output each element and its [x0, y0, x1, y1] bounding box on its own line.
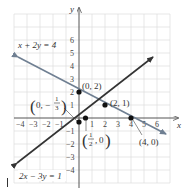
label-4-0: (4, 0) [139, 137, 159, 147]
svg-text:−3: −3 [66, 153, 75, 162]
label-2-1: (2, 1) [110, 98, 130, 108]
svg-text:1: 1 [70, 101, 74, 110]
svg-text:4: 4 [129, 120, 133, 129]
y-tick-labels: 6 5 4 3 2 1 −1 −2 −3 −4 [66, 36, 75, 175]
svg-text:−1: −1 [66, 127, 75, 136]
svg-text:): ) [105, 131, 111, 150]
svg-text:2: 2 [103, 120, 107, 129]
svg-text:−4: −4 [66, 166, 75, 175]
svg-text:6: 6 [70, 36, 74, 45]
svg-text:5: 5 [70, 49, 74, 58]
svg-text:(: ( [82, 131, 88, 150]
svg-text:): ) [61, 97, 67, 116]
svg-text:2: 2 [89, 140, 93, 148]
svg-text:0, −: 0, − [36, 100, 50, 110]
svg-text:,: , [95, 135, 97, 145]
svg-text:1: 1 [90, 120, 94, 129]
x-axis-label: x [176, 120, 181, 130]
line2-label: 2x − 3y = 1 [19, 171, 62, 181]
graph: x y −4 −3 −2 −1 1 2 3 4 5 6 6 5 4 3 2 1 … [0, 0, 189, 193]
svg-text:6: 6 [155, 120, 159, 129]
label-0-2: (0, 2) [82, 81, 102, 91]
svg-text:0: 0 [99, 135, 104, 145]
y-axis-label: y [69, 4, 74, 14]
svg-text:3: 3 [55, 104, 59, 112]
svg-text:−2: −2 [66, 140, 75, 149]
svg-text:−4: −4 [16, 120, 25, 129]
line1-label: x + 2y = 4 [17, 40, 57, 50]
point-4-0 [128, 115, 133, 120]
svg-text:−2: −2 [42, 120, 51, 129]
point-half-0 [83, 115, 88, 120]
svg-text:3: 3 [116, 120, 120, 129]
svg-text:2: 2 [70, 88, 74, 97]
svg-text:3: 3 [70, 75, 74, 84]
point-0-2 [76, 89, 81, 94]
svg-text:1: 1 [55, 95, 59, 103]
point-2-1 [102, 102, 107, 107]
svg-text:4: 4 [70, 62, 74, 71]
svg-text:−3: −3 [29, 120, 38, 129]
svg-text:1: 1 [89, 131, 93, 139]
text-cursor [7, 178, 8, 187]
point-0-neg-third [76, 119, 81, 124]
